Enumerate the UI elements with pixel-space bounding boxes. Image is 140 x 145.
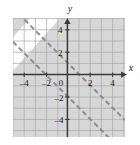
y-axis-label: y (67, 3, 73, 14)
graph-canvas: –4 –2 0 2 4 4 2 –2 –4 x y (0, 0, 140, 145)
y-tick-label--4: –4 (54, 115, 65, 125)
x-tick-label-4: 4 (110, 78, 115, 88)
y-tick-label-2: 2 (58, 48, 63, 58)
x-axis-label: x (128, 62, 134, 73)
y-tick-label-4: 4 (58, 25, 63, 35)
x-tick-label-0: 0 (59, 78, 64, 88)
y-tick-label--2: –2 (54, 93, 64, 103)
x-tick-label--4: –4 (19, 78, 30, 88)
x-tick-label--2: –2 (41, 78, 51, 88)
x-tick-label-2: 2 (88, 78, 93, 88)
coordinate-plane-figure: –4 –2 0 2 4 4 2 –2 –4 x y (0, 0, 140, 145)
